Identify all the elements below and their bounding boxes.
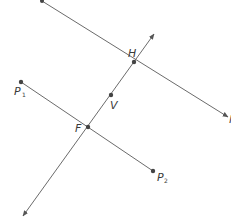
label-f: F xyxy=(75,122,82,135)
label-p1-subscript: 1 xyxy=(22,91,26,98)
label-p1: P xyxy=(14,85,21,98)
label-v: V xyxy=(110,99,119,112)
point-v xyxy=(109,93,113,97)
label-p2: P xyxy=(157,171,164,184)
point-p2 xyxy=(151,169,155,173)
label-line-partial: l xyxy=(229,113,231,126)
label-p2-subscript: 2 xyxy=(164,177,168,184)
label-h: H xyxy=(128,47,136,60)
point-p1 xyxy=(19,80,23,84)
point-f xyxy=(86,125,90,129)
point-h xyxy=(132,60,136,64)
directrix-start-point xyxy=(40,0,44,3)
geometry-diagram: H V F P 1 P 2 l xyxy=(0,0,231,219)
